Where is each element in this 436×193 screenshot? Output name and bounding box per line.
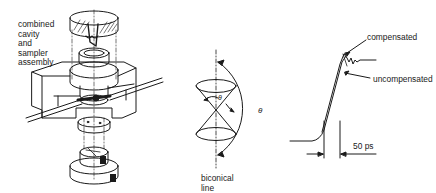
biconical-label: biconical line [201,174,234,193]
theta-angle-label: θ [258,106,262,116]
uncompensated-label: uncompensated [373,75,433,85]
main-block [32,62,136,118]
time-scale-label: 50 ps [353,142,374,152]
cone-half-angle-label: θ [218,93,222,103]
assembly-label-line: assembly [18,58,54,68]
coax-lines [26,78,163,122]
biconical-line-drawing [196,50,243,168]
assembly-label: combined cavity and sampler assembly [18,20,54,68]
figure-canvas: combined cavity and sampler assembly bic… [0,0,436,193]
compensated-label: compensated [367,33,417,43]
biconical-label-line: line [201,184,234,193]
